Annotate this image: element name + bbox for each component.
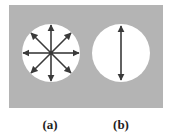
- panel-a: [22, 24, 80, 82]
- panel-b: [92, 24, 150, 82]
- diagram-figure: [0, 0, 171, 140]
- panel-a-label: (a): [42, 117, 57, 133]
- panel-b-label: (b): [113, 117, 129, 133]
